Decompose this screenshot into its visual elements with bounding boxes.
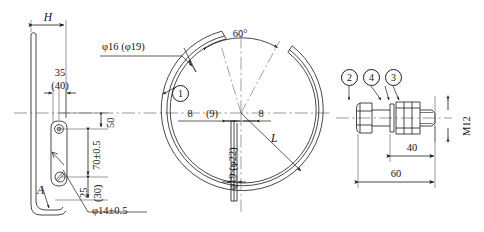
dim-phi16-label: φ16 (φ19) xyxy=(102,42,145,53)
drawing-sheet: H 35 (40) 50 70±0.5 25 (30) φ14±0.5 A φ1… xyxy=(0,0,484,232)
dim-phi19-label: φ19 (φ22) xyxy=(228,147,239,190)
dim-35-label: 35 xyxy=(55,68,66,79)
dim-radius-L-label: L xyxy=(271,133,277,145)
dim-M12-label: M12 xyxy=(462,116,473,136)
balloon-1[interactable]: 1 xyxy=(172,85,189,102)
dim-left8-label: 8 xyxy=(187,109,192,120)
dim-40-label: (40) xyxy=(51,81,69,92)
balloon-2[interactable]: 2 xyxy=(341,69,358,86)
dim-paren9-label: (9) xyxy=(206,109,218,120)
dim-M12 xyxy=(435,95,448,143)
dim-30-label: (30) xyxy=(93,185,104,203)
side-view-eye-plate xyxy=(51,121,67,186)
dim-H-label: H xyxy=(44,12,52,24)
dim-35-40 xyxy=(44,88,76,124)
dim-25-label: 25 xyxy=(79,188,90,199)
dim-40-bolt-label: 40 xyxy=(407,143,418,154)
dim-angle-60 xyxy=(207,27,280,212)
dim-angle60-label: 60° xyxy=(233,29,248,40)
dim-70-label: 70±0.5 xyxy=(92,141,103,170)
balloon-4[interactable]: 4 xyxy=(363,69,380,86)
dim-50-label: 50 xyxy=(106,118,117,129)
dim-right8-label: 8 xyxy=(258,109,263,120)
dim-60 xyxy=(358,134,435,188)
dim-phi14-label: φ14±0.5 xyxy=(92,206,127,217)
bend-A-label: A xyxy=(37,185,44,197)
bolt-balloon-leaders xyxy=(349,86,399,100)
balloon-3[interactable]: 3 xyxy=(385,69,402,86)
dim-60-bolt-label: 60 xyxy=(391,169,402,180)
